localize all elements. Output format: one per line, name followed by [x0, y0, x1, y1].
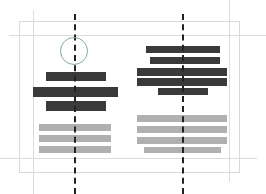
left-column-dark-bar: [46, 72, 106, 81]
right-column-center-line[interactable]: [182, 14, 184, 194]
right-margin-guide: [229, 0, 230, 182]
left-column-dark-bar: [46, 101, 106, 111]
left-margin-guide: [33, 10, 34, 194]
top-margin-guide: [9, 35, 266, 36]
right-column-dark-bar: [150, 57, 220, 64]
highlight-circle[interactable]: [60, 37, 88, 65]
bottom-margin-guide: [0, 158, 257, 159]
layout-wireframe-canvas: [0, 0, 266, 194]
